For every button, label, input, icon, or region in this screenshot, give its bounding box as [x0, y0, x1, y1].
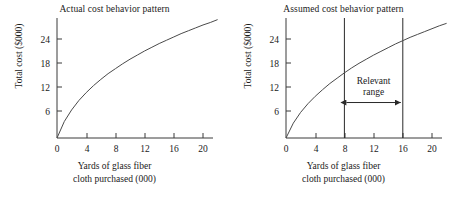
- x-tick-label-20: 20: [427, 144, 437, 154]
- chart-panel-actual: Actual cost behavior pattern Total cost …: [0, 0, 229, 205]
- x-axis-label-actual: Yards of glass fiber cloth purchased (00…: [0, 160, 229, 185]
- x-axis-label-assumed-line1: Yards of glass fiber: [229, 160, 458, 173]
- cost-behavior-figure: Actual cost behavior pattern Total cost …: [0, 0, 458, 205]
- y-tick-label-24: 24: [270, 35, 280, 45]
- x-axis-label-actual-line2: cloth purchased (000): [0, 173, 229, 186]
- y-tick-label-6: 6: [45, 107, 50, 117]
- x-tick-label-0: 0: [55, 144, 60, 154]
- y-tick-label-18: 18: [41, 59, 51, 69]
- x-tick-label-16: 16: [398, 144, 408, 154]
- x-axis-label-assumed-line2: cloth purchased (000): [229, 173, 458, 186]
- relevant-range-label-line2: range: [363, 87, 384, 97]
- x-tick-label-8: 8: [343, 144, 348, 154]
- chart-panel-assumed: Assumed cost behavior pattern Total cost…: [229, 0, 458, 205]
- x-tick-label-8: 8: [114, 144, 119, 154]
- x-axis-label-actual-line1: Yards of glass fiber: [0, 160, 229, 173]
- x-tick-label-12: 12: [369, 144, 379, 154]
- x-axis-label-assumed: Yards of glass fiber cloth purchased (00…: [229, 160, 458, 185]
- plot-area-assumed: 24 18 12 6 0 4 8 12 16 20 Relevant range: [229, 0, 458, 160]
- x-tick-label-4: 4: [85, 144, 90, 154]
- x-tick-label-4: 4: [314, 144, 319, 154]
- x-tick-label-16: 16: [169, 144, 179, 154]
- y-tick-label-24: 24: [41, 35, 51, 45]
- x-tick-label-20: 20: [198, 144, 208, 154]
- x-tick-label-12: 12: [140, 144, 150, 154]
- plot-area-actual: 24 18 12 6 0 4 8 12 16 20: [0, 0, 229, 160]
- cost-curve-actual: [57, 20, 218, 138]
- y-tick-label-18: 18: [270, 59, 280, 69]
- relevant-range-label-line1: Relevant: [357, 76, 391, 86]
- y-tick-label-12: 12: [41, 83, 51, 93]
- x-tick-label-0: 0: [284, 144, 289, 154]
- y-tick-label-6: 6: [274, 107, 279, 117]
- y-tick-label-12: 12: [270, 83, 280, 93]
